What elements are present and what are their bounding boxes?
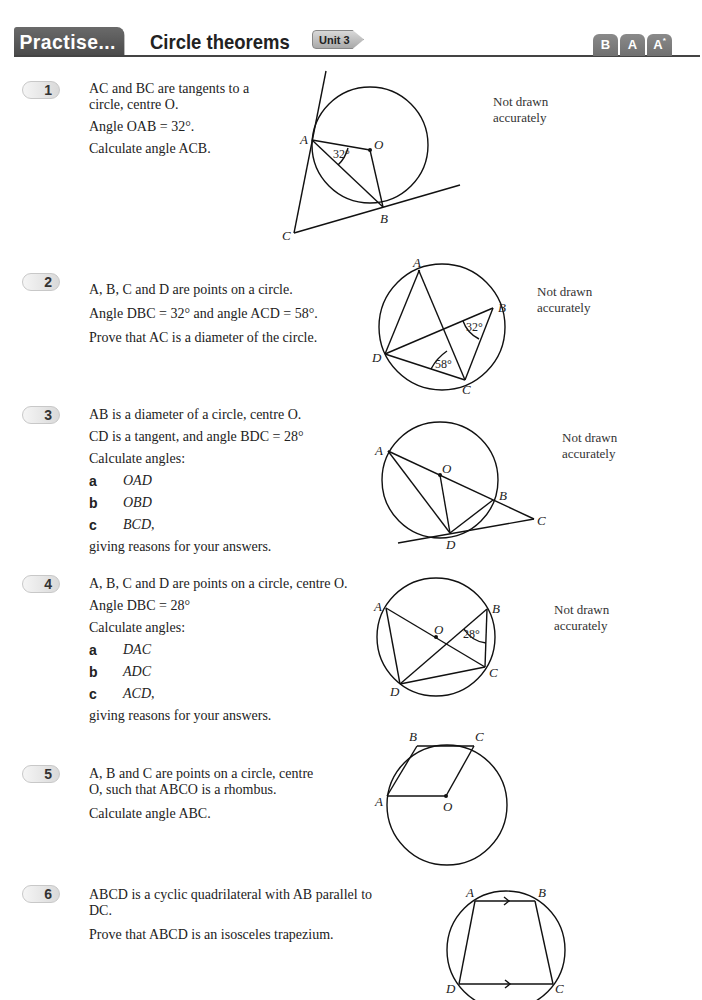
question-line: Angle OAB = 32°. xyxy=(89,119,269,135)
figure-cyclic-quadrilateral-diagram: A B C D 32° 58° xyxy=(350,250,540,400)
not-drawn-note: Not drawn accurately xyxy=(493,94,563,126)
svg-text:32°: 32° xyxy=(333,147,350,161)
question-number: 4 xyxy=(22,575,60,593)
svg-text:D: D xyxy=(445,537,456,552)
question-text: A, B, C and D are points on a circle. An… xyxy=(89,282,369,352)
svg-text:A: A xyxy=(465,885,474,900)
question-text: A, B and C are points on a circle, centr… xyxy=(89,766,329,828)
question-line: Prove that AC is a diameter of the circl… xyxy=(89,330,369,346)
svg-text:B: B xyxy=(492,601,500,616)
svg-text:B: B xyxy=(538,885,546,900)
question-number: 1 xyxy=(22,81,60,99)
question-part: aOAD xyxy=(89,473,369,489)
svg-text:B: B xyxy=(499,488,507,503)
svg-text:D: D xyxy=(371,350,382,365)
svg-text:A: A xyxy=(299,132,308,147)
question-line: AC and BC are tangents to a circle, cent… xyxy=(89,81,269,113)
svg-text:B: B xyxy=(498,300,506,315)
grade-badges: B A A* xyxy=(593,34,672,56)
figure-tangents-diagram: A B C O 32° xyxy=(270,60,480,250)
question-line: Angle DBC = 32° and angle ACD = 58°. xyxy=(89,306,369,322)
question-number: 5 xyxy=(22,765,60,783)
question-closing: giving reasons for your answers. xyxy=(89,539,369,555)
question-line: A, B, C and D are points on a circle. xyxy=(89,282,369,298)
svg-text:D: D xyxy=(389,684,400,699)
svg-text:B: B xyxy=(380,211,388,226)
question-number: 2 xyxy=(22,273,60,291)
svg-text:B: B xyxy=(409,729,417,744)
svg-text:58°: 58° xyxy=(435,357,452,371)
question-line: Calculate angles: xyxy=(89,451,369,467)
question-text: A, B, C and D are points on a circle, ce… xyxy=(89,576,379,730)
svg-text:A: A xyxy=(373,599,382,614)
question-part: cBCD, xyxy=(89,517,369,533)
svg-text:32°: 32° xyxy=(466,320,483,334)
svg-text:C: C xyxy=(282,228,291,243)
page-title: Circle theorems xyxy=(150,27,290,56)
page-header: Practise... Circle theorems Unit 3 B A A… xyxy=(0,0,702,60)
question-line: Prove that ABCD is an isosceles trapeziu… xyxy=(89,927,389,943)
svg-text:O: O xyxy=(442,461,452,476)
question-number: 6 xyxy=(22,885,60,903)
svg-text:A: A xyxy=(412,255,421,270)
svg-text:C: C xyxy=(462,382,471,397)
question-number: 3 xyxy=(22,406,60,424)
figure-rhombus-diagram: A B C O xyxy=(360,725,520,855)
svg-text:C: C xyxy=(537,513,546,528)
svg-text:A: A xyxy=(374,443,383,458)
not-drawn-note: Not drawn accurately xyxy=(537,284,607,316)
grade-a-star-badge: A* xyxy=(647,34,672,56)
svg-text:28°: 28° xyxy=(463,627,480,641)
question-line: Angle DBC = 28° xyxy=(89,598,379,614)
question-line: Calculate angle ACB. xyxy=(89,141,269,157)
question-text: ABCD is a cyclic quadrilateral with AB p… xyxy=(89,887,389,949)
unit-badge: Unit 3 xyxy=(312,30,364,49)
question-line: AB is a diameter of a circle, centre O. xyxy=(89,407,369,423)
grade-b-badge: B xyxy=(593,34,618,56)
question-line: Calculate angles: xyxy=(89,620,379,636)
question-line: CD is a tangent, and angle BDC = 28° xyxy=(89,429,369,445)
figure-inscribed-angles-diagram: A B C D O 28° xyxy=(360,580,550,705)
question-text: AC and BC are tangents to a circle, cent… xyxy=(89,81,269,163)
svg-text:A: A xyxy=(374,794,383,809)
question-text: AB is a diameter of a circle, centre O. … xyxy=(89,407,369,561)
grade-a-badge: A xyxy=(620,34,645,56)
figure-trapezium-diagram: A B C D xyxy=(430,870,590,1000)
svg-text:C: C xyxy=(555,981,564,996)
practise-tab: Practise... xyxy=(14,27,124,56)
svg-text:O: O xyxy=(374,137,384,152)
question-part: bADC xyxy=(89,664,379,680)
question-line: A, B and C are points on a circle, centr… xyxy=(89,766,329,798)
question-line: Calculate angle ABC. xyxy=(89,806,329,822)
question-line: ABCD is a cyclic quadrilateral with AB p… xyxy=(89,887,389,919)
not-drawn-note: Not drawn accurately xyxy=(554,602,624,634)
question-line: A, B, C and D are points on a circle, ce… xyxy=(89,576,379,592)
svg-text:D: D xyxy=(445,981,456,996)
question-part: aDAC xyxy=(89,642,379,658)
question-closing: giving reasons for your answers. xyxy=(89,708,379,724)
svg-text:C: C xyxy=(489,665,498,680)
question-part: bOBD xyxy=(89,495,369,511)
svg-text:C: C xyxy=(475,729,484,744)
svg-text:O: O xyxy=(443,799,453,814)
question-part: cACD, xyxy=(89,686,379,702)
svg-text:O: O xyxy=(434,622,444,637)
figure-diameter-tangent-diagram: A B C D O xyxy=(360,405,580,555)
